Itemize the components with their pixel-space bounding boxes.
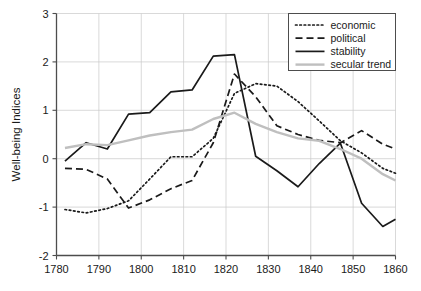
y-tick-label: 1 <box>42 104 48 116</box>
x-tick-label: 1850 <box>341 263 365 275</box>
legend-label-stability: stability <box>331 45 367 57</box>
y-tick-label: 3 <box>42 8 48 20</box>
legend-label-political: political <box>331 32 366 44</box>
x-tick-label: 1810 <box>171 263 195 275</box>
x-tick-label: 1820 <box>214 263 238 275</box>
x-tick-label: 1860 <box>383 263 407 275</box>
y-axis-title-text: Well-being Indices <box>10 87 22 181</box>
y-tick-label: -1 <box>39 201 49 213</box>
y-tick-label: 2 <box>42 56 48 68</box>
chart-legend: economicpoliticalstabilitysecular trend <box>289 14 396 71</box>
chart-figure: -2-1012317801790180018101820183018401850… <box>0 0 421 291</box>
legend-label-economic: economic <box>331 19 376 31</box>
x-tick-label: 1830 <box>256 263 280 275</box>
x-tick-label: 1790 <box>87 263 111 275</box>
x-tick-label: 1800 <box>129 263 153 275</box>
legend-label-secular-trend: secular trend <box>331 58 392 70</box>
y-tick-label: -2 <box>39 250 49 262</box>
y-axis-title: Well-being Indices <box>10 87 22 181</box>
line-chart: -2-1012317801790180018101820183018401850… <box>0 0 421 291</box>
x-tick-label: 1840 <box>299 263 323 275</box>
y-tick-label: 0 <box>42 153 48 165</box>
x-tick-label: 1780 <box>44 263 68 275</box>
